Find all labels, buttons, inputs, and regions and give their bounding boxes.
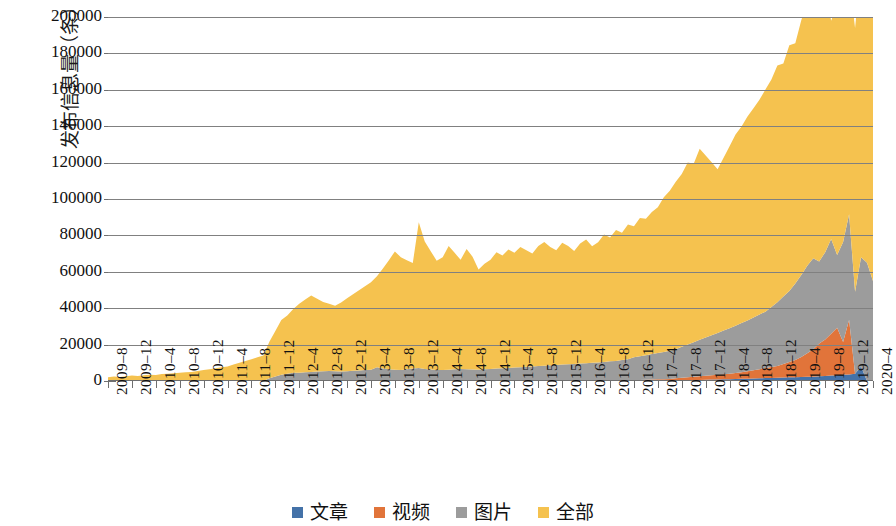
x-axis-tick-label: 2018–4 (736, 347, 753, 395)
x-axis-tick-mark (204, 381, 205, 388)
gridline (108, 163, 873, 164)
x-axis-tick-label: 2015–12 (568, 339, 585, 395)
x-axis-tick-mark (491, 381, 492, 388)
x-axis-tick-label: 2009–12 (138, 339, 155, 395)
x-axis-tick-mark (682, 381, 683, 388)
x-axis-tick-mark (395, 381, 396, 388)
x-axis-tick-label: 2011–12 (281, 340, 298, 395)
x-axis-tick-mark (323, 381, 324, 388)
x-axis-tick-label: 2011–8 (257, 348, 274, 395)
y-axis-tick-label: 160000 (0, 79, 102, 99)
x-axis-tick-label: 2009–8 (114, 347, 131, 395)
gridline (108, 272, 873, 273)
x-axis-tick-label: 2010–8 (186, 347, 203, 395)
x-axis-tick-mark (156, 381, 157, 388)
chart-legend: 文章视频图片全部 (0, 498, 885, 526)
x-axis-tick-mark (562, 381, 563, 388)
legend-label: 文章 (310, 503, 348, 522)
gridline (108, 17, 873, 18)
x-axis-tick-label: 2013–12 (425, 339, 442, 395)
x-axis-tick-label: 2012–4 (305, 347, 322, 395)
x-axis-tick-mark (371, 381, 372, 388)
x-axis-tick-label: 2013–4 (377, 347, 394, 395)
x-axis-tick-mark (443, 381, 444, 388)
x-axis-tick-mark (419, 381, 420, 388)
x-axis-tick-mark (514, 381, 515, 388)
y-axis-tick-label: 200000 (0, 6, 102, 26)
y-axis-tick-label: 0 (0, 370, 102, 390)
gridline (108, 90, 873, 91)
x-axis-tick-label: 2016–12 (640, 339, 657, 395)
x-axis-tick-mark (610, 381, 611, 388)
x-axis-labels: 2009–82009–122010–42010–82010–122011–420… (0, 389, 885, 494)
x-axis-tick-label: 2019–8 (831, 347, 848, 395)
x-axis-tick-mark (180, 381, 181, 388)
x-axis-tick-label: 2017–4 (664, 347, 681, 395)
x-axis-tick-mark (538, 381, 539, 388)
x-axis-tick-mark (753, 381, 754, 388)
legend-label: 图片 (474, 503, 512, 522)
y-axis-tick-label: 120000 (0, 152, 102, 172)
gridline (108, 199, 873, 200)
x-axis-tick-label: 2016–4 (592, 347, 609, 395)
x-axis-tick-mark (730, 381, 731, 388)
legend-swatch-icon (292, 507, 303, 518)
x-axis-tick-mark (132, 381, 133, 388)
x-axis-tick-label: 2012–8 (329, 347, 346, 395)
y-axis-tick-label: 20000 (0, 334, 102, 354)
gridline (108, 308, 873, 309)
legend-item[interactable]: 视频 (374, 503, 430, 522)
gridline (108, 126, 873, 127)
legend-item[interactable]: 图片 (456, 503, 512, 522)
x-axis-tick-mark (777, 381, 778, 388)
legend-item[interactable]: 全部 (538, 503, 594, 522)
x-axis-tick-label: 2018–12 (783, 339, 800, 395)
x-axis-tick-label: 2012–12 (353, 339, 370, 395)
plot-area (108, 17, 873, 381)
legend-label: 视频 (392, 503, 430, 522)
legend-item[interactable]: 文章 (292, 503, 348, 522)
x-axis-tick-label: 2020–4 (879, 347, 896, 395)
x-axis-tick-mark (873, 381, 874, 388)
x-axis-tick-mark (825, 381, 826, 388)
legend-label: 全部 (556, 503, 594, 522)
x-axis-tick-label: 2015–8 (544, 347, 561, 395)
x-axis-tick-label: 2013–8 (401, 347, 418, 395)
x-axis-tick-label: 2010–12 (210, 339, 227, 395)
x-axis-tick-mark (275, 381, 276, 388)
y-axis-tick-label: 140000 (0, 115, 102, 135)
x-axis-tick-mark (849, 381, 850, 388)
y-axis-tick-label: 180000 (0, 42, 102, 62)
x-axis-tick-mark (108, 381, 109, 388)
x-axis-tick-label: 2010–4 (162, 347, 179, 395)
x-axis-tick-label: 2014–12 (497, 339, 514, 395)
x-axis-tick-label: 2017–12 (712, 339, 729, 395)
x-axis-tick-label: 2019–12 (855, 339, 872, 395)
x-axis-tick-mark (634, 381, 635, 388)
x-axis-tick-mark (706, 381, 707, 388)
legend-swatch-icon (456, 507, 467, 518)
y-axis-tick-label: 60000 (0, 261, 102, 281)
x-axis-tick-label: 2017–8 (688, 347, 705, 395)
x-axis-tick-mark (347, 381, 348, 388)
y-axis-tick-label: 80000 (0, 224, 102, 244)
x-axis-tick-mark (467, 381, 468, 388)
x-axis-tick-mark (299, 381, 300, 388)
x-axis-tick-mark (586, 381, 587, 388)
x-axis-tick-label: 2011–4 (234, 348, 251, 395)
x-axis-tick-mark (801, 381, 802, 388)
x-axis-tick-label: 2016–8 (616, 347, 633, 395)
y-axis-tick-label: 40000 (0, 297, 102, 317)
gridline (108, 53, 873, 54)
legend-swatch-icon (538, 507, 549, 518)
x-axis-tick-mark (658, 381, 659, 388)
x-axis-tick-label: 2018–8 (759, 347, 776, 395)
x-axis-tick-label: 2015–4 (520, 347, 537, 395)
y-axis-tick-label: 100000 (0, 188, 102, 208)
legend-swatch-icon (374, 507, 385, 518)
x-axis-tick-mark (228, 381, 229, 388)
x-axis-tick-label: 2019–4 (807, 347, 824, 395)
gridline (108, 235, 873, 236)
y-axis-title: 发布信息量（条） (55, 0, 81, 193)
